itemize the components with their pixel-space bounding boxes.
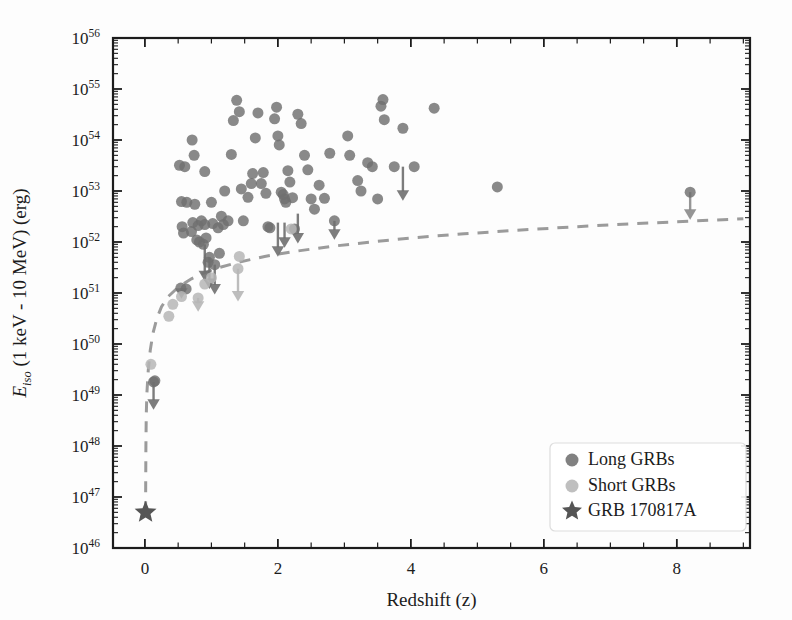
data-point	[163, 311, 174, 322]
x-tick-label: 4	[407, 559, 416, 578]
data-point	[187, 135, 198, 146]
data-point	[397, 123, 408, 134]
data-point	[189, 150, 200, 161]
data-point	[260, 188, 271, 199]
data-point	[201, 232, 212, 243]
data-point	[356, 186, 367, 197]
data-point	[199, 166, 210, 177]
data-point	[299, 150, 310, 161]
x-axis-label: Redshift (z)	[386, 589, 476, 611]
data-point	[179, 161, 190, 172]
data-point	[296, 118, 307, 129]
data-point	[264, 222, 275, 233]
x-tick-label: 8	[673, 559, 682, 578]
legend-label-text: Long GRBs	[588, 449, 675, 469]
grb-eiso-redshift-scatter-plot: 02468 1046104710481049105010511052105310…	[0, 0, 792, 620]
data-point	[226, 149, 237, 160]
data-point	[145, 359, 156, 370]
data-point	[342, 130, 353, 141]
data-point	[167, 299, 178, 310]
data-point	[389, 161, 400, 172]
legend-circle-marker	[566, 480, 579, 493]
data-point	[429, 103, 440, 114]
data-point	[309, 204, 320, 215]
legend-label-text: Short GRBs	[588, 475, 676, 495]
data-point	[287, 192, 298, 203]
data-point	[352, 175, 363, 186]
data-point	[367, 161, 378, 172]
legend-circle-marker	[566, 454, 579, 467]
figure-container: 02468 1046104710481049105010511052105310…	[0, 0, 792, 620]
data-point	[282, 165, 293, 176]
data-point	[324, 148, 335, 159]
data-point	[238, 215, 249, 226]
data-point	[372, 193, 383, 204]
data-point	[233, 263, 244, 274]
data-point	[409, 161, 420, 172]
data-point	[214, 248, 225, 259]
data-point	[344, 150, 355, 161]
data-point	[685, 187, 696, 198]
x-tick-label: 2	[274, 559, 283, 578]
data-point	[242, 192, 253, 203]
data-point	[228, 115, 239, 126]
data-point	[319, 193, 330, 204]
data-point	[234, 106, 245, 117]
data-point	[231, 95, 242, 106]
data-point	[193, 292, 204, 303]
data-point	[209, 259, 220, 270]
data-point	[379, 114, 390, 125]
data-point	[302, 164, 313, 175]
legend-label-text: GRB 170817A	[588, 500, 697, 520]
data-point	[256, 178, 267, 189]
data-point	[189, 199, 200, 210]
data-point	[206, 272, 217, 283]
x-tick-label: 6	[540, 559, 549, 578]
data-point	[223, 215, 234, 226]
data-point	[492, 181, 503, 192]
data-point	[314, 180, 325, 191]
data-point	[250, 132, 261, 143]
data-point	[292, 109, 303, 120]
data-point	[258, 167, 269, 178]
data-point	[271, 102, 282, 113]
data-point	[206, 197, 217, 208]
x-tick-label: 0	[141, 559, 150, 578]
data-point	[252, 107, 263, 118]
data-point	[306, 193, 317, 204]
data-point	[149, 375, 160, 386]
data-point	[284, 177, 295, 188]
data-point	[274, 139, 285, 150]
data-point	[329, 215, 340, 226]
data-point	[269, 113, 280, 124]
data-point	[219, 186, 230, 197]
data-point	[246, 178, 257, 189]
data-point	[234, 251, 245, 262]
legend: Long GRBsShort GRBsGRB 170817A	[550, 443, 746, 531]
data-point	[176, 291, 187, 302]
data-point	[377, 94, 388, 105]
data-point	[286, 223, 297, 234]
x-axis-label-text: Redshift (z)	[386, 589, 476, 611]
data-point	[247, 168, 258, 179]
